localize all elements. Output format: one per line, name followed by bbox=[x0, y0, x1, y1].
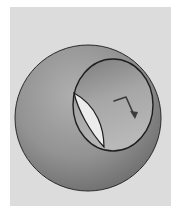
sphere-with-hole-figure bbox=[0, 0, 182, 213]
